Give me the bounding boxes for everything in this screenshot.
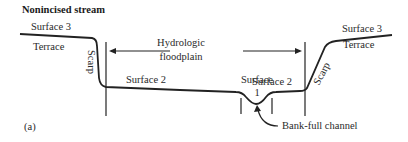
bankfull-channel-label: Bank-full channel [282,121,358,132]
surface3-left-label: Surface 3 [31,22,71,33]
surface1-label-line2: 1 [232,88,282,99]
surface2-left-label: Surface 2 [126,75,166,86]
bankfull-pointer-line [258,110,278,126]
floodplain-label-line1: Hydrologic [150,38,212,49]
bankfull-arrowhead-icon [254,105,261,112]
scarp-left-label: Scarp [86,50,97,74]
left-arrowhead-icon [109,48,116,54]
terrace-left-label: Terrace [33,42,64,53]
floodplain-label-line2: floodplain [150,52,212,63]
surface2-right-label: Surface 2 [252,77,292,88]
stream-cross-section-diagram: Nonincised stream Surface 3 Terrace Scar… [0,0,408,142]
panel-label: (a) [24,122,36,133]
diagram-title: Nonincised stream [22,5,105,16]
right-arrowhead-icon [295,48,302,54]
terrace-right-label: Terrace [343,40,374,51]
surface3-right-label: Surface 3 [342,24,382,35]
